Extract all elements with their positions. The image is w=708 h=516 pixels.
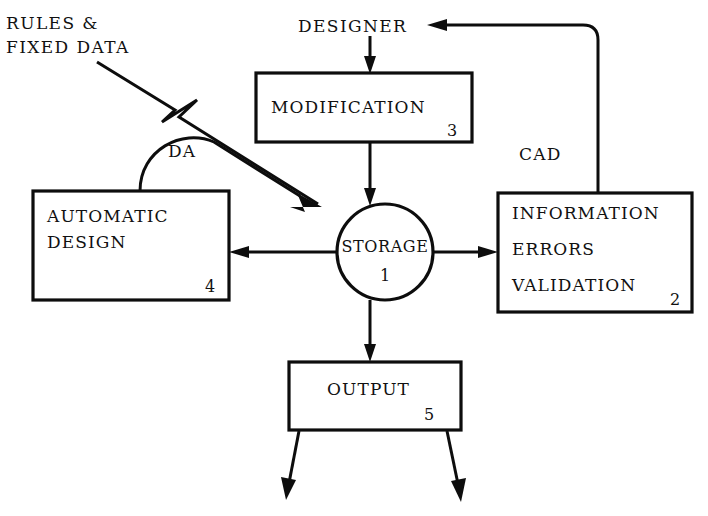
output-label: OUTPUT [327, 379, 410, 399]
node-output[interactable]: OUTPUT 5 [289, 362, 461, 430]
rules-fixed-data-line-2: FIXED DATA [6, 37, 130, 57]
modification-label: MODIFICATION [271, 97, 426, 117]
rules-fixed-data-line-1: RULES & [6, 13, 99, 33]
automatic-design-line-2: DESIGN [47, 232, 126, 252]
output-right-line [447, 431, 458, 484]
information-number: 2 [670, 290, 680, 309]
storage-to-output-arrowhead [364, 344, 376, 362]
output-left-line [289, 431, 299, 483]
edge-da-arc [140, 138, 300, 196]
diagram-canvas: RULES & FIXED DATA DESIGNER DA MODIFICAT… [0, 0, 708, 516]
edge-label-da: DA [168, 141, 196, 161]
edge-modification-to-storage [364, 142, 376, 206]
information-line-1: INFORMATION [512, 203, 660, 223]
information-line-3: VALIDATION [511, 275, 636, 295]
node-automatic-design[interactable]: AUTOMATIC DESIGN 4 [33, 191, 229, 300]
storage-to-automatic-design-arrowhead [229, 246, 249, 258]
node-modification[interactable]: MODIFICATION 3 [256, 73, 472, 142]
edge-output-left [281, 431, 299, 500]
edge-storage-to-automatic-design [229, 246, 337, 258]
edge-storage-to-information [433, 246, 498, 258]
diagram-svg: RULES & FIXED DATA DESIGNER DA MODIFICAT… [0, 0, 708, 516]
label-designer: DESIGNER [298, 16, 407, 36]
node-storage[interactable]: STORAGE 1 [337, 204, 433, 300]
storage-number: 1 [380, 266, 390, 285]
designer-label: DESIGNER [298, 16, 407, 36]
label-rules-fixed-data: RULES & FIXED DATA [6, 13, 130, 57]
information-line-2: ERRORS [512, 239, 595, 259]
automatic-design-line-1: AUTOMATIC [46, 206, 169, 226]
output-left-arrowhead [281, 477, 296, 500]
output-number: 5 [424, 405, 434, 424]
edge-designer-to-modification [364, 36, 376, 74]
modification-to-storage-arrowhead [364, 188, 376, 206]
storage-to-information-arrowhead [478, 246, 498, 258]
node-information[interactable]: INFORMATION ERRORS VALIDATION 2 [498, 193, 692, 312]
designer-to-modification-arrowhead [364, 56, 376, 74]
edge-label-cad: CAD [519, 144, 562, 164]
storage-label: STORAGE [341, 237, 428, 256]
edge-output-right [447, 431, 466, 502]
modification-number: 3 [447, 121, 457, 140]
automatic-design-number: 4 [205, 277, 215, 296]
edge-storage-to-output [364, 300, 376, 362]
da-arc-line [140, 138, 300, 196]
output-right-arrowhead [451, 478, 466, 502]
cad-feedback-arrowhead [427, 19, 447, 31]
